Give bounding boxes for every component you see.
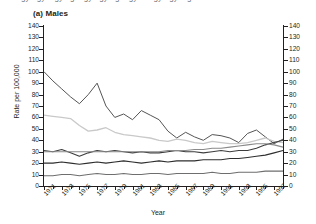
chart-series-line [44, 171, 283, 176]
chart-series-line [44, 72, 283, 144]
chart-series-line [44, 115, 283, 144]
chart-figure: ergyergy ergyerg ergyergyerg ergyer ergy… [0, 0, 316, 224]
chart-lines [0, 0, 316, 224]
